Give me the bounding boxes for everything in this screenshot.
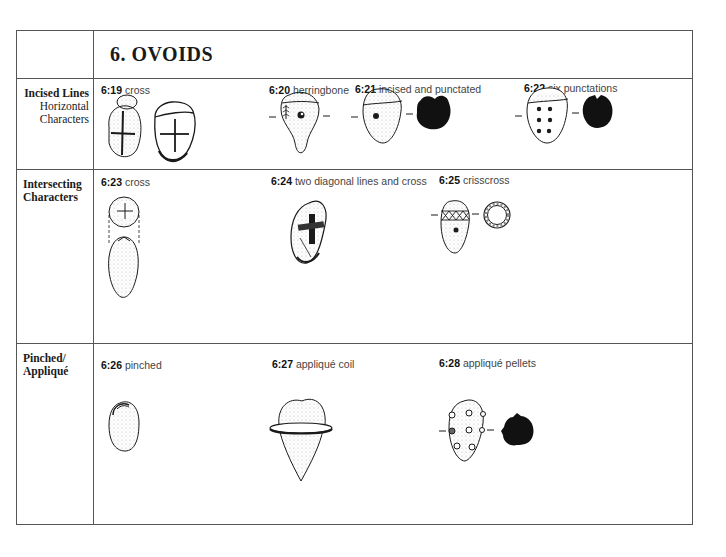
token-6-24 <box>291 201 326 263</box>
token-6-23 <box>109 197 139 297</box>
token-6-19-b <box>155 102 195 162</box>
token-6-25 <box>431 201 510 253</box>
token-6-28 <box>439 400 534 461</box>
ovoids-table: 6. OVOIDS Incised Lines Horizontal Chara… <box>16 30 693 525</box>
token-6-27 <box>270 399 332 481</box>
token-6-19-a <box>109 95 141 157</box>
token-6-26 <box>109 402 139 451</box>
token-6-20 <box>269 92 330 152</box>
illustrations <box>17 31 694 526</box>
token-6-21 <box>351 89 451 143</box>
token-6-22 <box>515 88 613 143</box>
